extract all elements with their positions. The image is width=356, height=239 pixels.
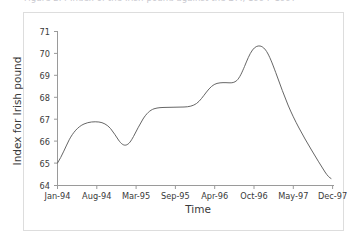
x-tick-marks (58, 186, 333, 190)
y-tick-label-64: 64 (30, 181, 50, 191)
y-tick-marks (54, 32, 58, 186)
y-axis-title: Index for Irish pound (11, 46, 23, 176)
x-tick-label-jan-94: Jan-94 (36, 191, 80, 201)
figure-container: Figure 2.4 Index of the Irish pound agai… (0, 0, 356, 239)
x-tick-label-mar-95: Mar-95 (114, 191, 158, 201)
y-tick-label-70: 70 (30, 49, 50, 59)
data-series-line (58, 46, 332, 179)
x-tick-label-may-97: May-97 (271, 191, 315, 201)
y-tick-label-67: 67 (30, 115, 50, 125)
x-tick-label-apr-96: Apr-96 (193, 191, 237, 201)
y-tick-label-69: 69 (30, 71, 50, 81)
x-tick-label-aug-94: Aug-94 (75, 191, 119, 201)
y-tick-label-65: 65 (30, 159, 50, 169)
y-tick-label-66: 66 (30, 137, 50, 147)
y-tick-label-68: 68 (30, 93, 50, 103)
x-tick-label-dec-97: Dec-97 (311, 191, 355, 201)
x-axis-title: Time (118, 203, 278, 215)
y-tick-label-71: 71 (30, 27, 50, 37)
x-tick-label-sep-95: Sep-95 (153, 191, 197, 201)
x-tick-label-oct-96: Oct-96 (232, 191, 276, 201)
